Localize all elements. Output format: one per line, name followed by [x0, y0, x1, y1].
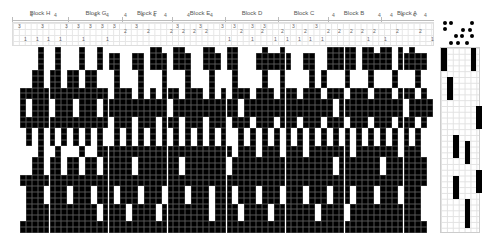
block-divider: [172, 17, 173, 22]
block-bracket: [225, 20, 278, 21]
threading-number: 1: [59, 36, 62, 42]
threading-number: 3: [176, 23, 179, 29]
threading-number: 2: [350, 28, 353, 34]
threading-number: 2: [261, 28, 264, 34]
block-bracket: [12, 20, 68, 21]
tie-up-mark: [453, 176, 459, 199]
threading-number: 4: [94, 12, 97, 18]
block-bracket: [68, 20, 122, 21]
tie-up-mark: [476, 106, 482, 129]
threading-number: 3: [292, 23, 295, 29]
threading-number: 3: [199, 23, 202, 29]
threading-number: 3: [65, 23, 68, 29]
block-divider: [381, 17, 382, 22]
threading-number: 1: [286, 36, 289, 42]
turning-dot: [468, 28, 472, 32]
pattern-cell: [421, 122, 427, 128]
threading-number: 1: [384, 36, 387, 42]
threading-number: 4: [164, 12, 167, 18]
threading-number: 1: [47, 36, 50, 42]
threading-number: 2: [240, 28, 243, 34]
block-bracket: [381, 20, 434, 21]
threading-number: 2: [419, 28, 422, 34]
turning-dot: [465, 41, 469, 45]
threading-number: 4: [54, 12, 57, 18]
threading-number: 3: [135, 23, 138, 29]
threading-number: 4: [141, 12, 144, 18]
threading-number: 4: [153, 12, 156, 18]
turning-dot: [454, 34, 458, 38]
pattern-cell: [215, 64, 221, 70]
threading-number: 1: [309, 36, 312, 42]
block-bracket: [122, 20, 172, 21]
block-bracket: [328, 20, 381, 21]
turning-dot: [443, 21, 447, 25]
tie-up-mark: [476, 170, 482, 193]
tie-up-mark: [471, 48, 477, 71]
threading-number: 4: [390, 12, 393, 18]
threading-number: 1: [251, 36, 254, 42]
threading-number: 1: [228, 36, 231, 42]
pattern-cell: [421, 227, 427, 233]
turning-dot: [456, 41, 460, 45]
threading-number: 2: [327, 28, 330, 34]
block-label: Block C: [294, 10, 315, 16]
tie-up-mark: [465, 199, 471, 228]
threading-number: 1: [36, 36, 39, 42]
block-divider: [328, 17, 329, 22]
threading-number: 4: [30, 12, 33, 18]
turning-sequence: [440, 16, 480, 46]
turning-dot: [470, 34, 474, 38]
threading-number: 2: [182, 28, 185, 34]
threading-number: 3: [315, 23, 318, 29]
threading-number: 2: [304, 28, 307, 34]
turning-dot: [443, 27, 447, 31]
threading-number: 2: [338, 28, 341, 34]
pattern-cell: [350, 64, 356, 70]
block-divider: [278, 17, 279, 22]
block-bracket: [172, 20, 225, 21]
threading-number: 3: [221, 23, 224, 29]
tie-up-mark: [465, 141, 471, 164]
threading-number: 3: [89, 23, 92, 29]
threading-number: 4: [124, 12, 127, 18]
pattern-cell: [421, 180, 427, 186]
threading-number: 3: [77, 23, 80, 29]
threading-number: 4: [401, 12, 404, 18]
threading-number: 1: [321, 36, 324, 42]
turning-dot: [461, 28, 465, 32]
pattern-cell: [103, 122, 109, 128]
block-divider: [225, 17, 226, 22]
threading-number: 4: [378, 12, 381, 18]
block-bracket: [278, 20, 328, 21]
block-divider: [122, 17, 123, 22]
tie-up-grid: [440, 47, 480, 233]
tie-up-mark: [441, 48, 447, 71]
threading-number: 3: [113, 23, 116, 29]
threading-number: 4: [210, 12, 213, 18]
threading-number: 2: [170, 28, 173, 34]
threading-number: 3: [41, 23, 44, 29]
threading-number: 4: [413, 12, 416, 18]
pattern-cell: [26, 140, 32, 146]
threading-number: 4: [332, 12, 335, 18]
threading-number: 3: [233, 23, 236, 29]
turning-dot: [460, 34, 464, 38]
turning-dot: [449, 21, 453, 25]
pattern-cell: [97, 64, 103, 70]
threading-number: 1: [24, 36, 27, 42]
threading-number: 3: [251, 23, 254, 29]
threading-number: 4: [106, 12, 109, 18]
pattern-cell: [427, 111, 433, 117]
threading-number: 2: [396, 28, 399, 34]
threading-number: 3: [101, 23, 104, 29]
pattern-cell: [61, 140, 67, 146]
threading-number: 4: [187, 12, 190, 18]
threading-number: 2: [147, 28, 150, 34]
threading-number: 2: [281, 28, 284, 34]
threading-number: 4: [424, 12, 427, 18]
turning-dot: [449, 41, 453, 45]
tie-up-mark: [447, 77, 453, 100]
pattern-cell: [286, 64, 292, 70]
threading-number: 2: [361, 28, 364, 34]
